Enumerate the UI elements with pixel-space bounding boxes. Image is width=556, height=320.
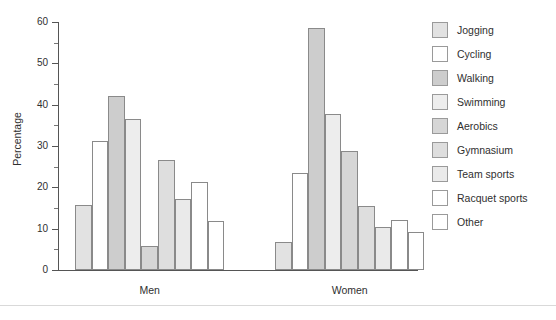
bar xyxy=(208,221,225,270)
y-axis-title-holder: Percentage xyxy=(10,100,24,180)
bar xyxy=(75,205,92,270)
bar xyxy=(341,151,358,270)
bar xyxy=(375,227,392,270)
y-tick-label: 60 xyxy=(18,17,48,27)
legend-item[interactable]: Swimming xyxy=(432,90,552,114)
bar xyxy=(292,173,309,270)
legend-label: Walking xyxy=(457,72,494,84)
legend-swatch-icon xyxy=(432,46,448,62)
bar xyxy=(158,160,175,270)
y-tick-label: 0 xyxy=(18,265,48,275)
legend-swatch-icon xyxy=(432,118,448,134)
legend-label: Aerobics xyxy=(457,120,498,132)
bar xyxy=(125,119,142,270)
bar xyxy=(308,28,325,270)
footer-divider xyxy=(0,305,556,306)
legend-swatch-icon xyxy=(432,142,448,158)
legend-label: Swimming xyxy=(457,96,505,108)
bar xyxy=(391,220,408,270)
legend-label: Team sports xyxy=(457,168,514,180)
y-tick-label: 50 xyxy=(18,58,48,68)
legend-item[interactable]: Aerobics xyxy=(432,114,552,138)
bar xyxy=(325,114,342,270)
x-axis-label-men: Men xyxy=(110,284,190,296)
legend-item[interactable]: Gymnasium xyxy=(432,138,552,162)
legend-item[interactable]: Walking xyxy=(432,66,552,90)
legend-item[interactable]: Other xyxy=(432,210,552,234)
bar xyxy=(141,246,158,270)
bar xyxy=(191,182,208,270)
legend-label: Other xyxy=(457,216,483,228)
x-axis-line xyxy=(58,270,418,271)
y-axis-title: Percentage xyxy=(11,99,23,179)
y-tick-label: 40 xyxy=(18,100,48,110)
y-tick-label: 10 xyxy=(18,224,48,234)
y-tick-major xyxy=(52,270,58,271)
legend-swatch-icon xyxy=(432,22,448,38)
legend-label: Racquet sports xyxy=(457,192,528,204)
bar xyxy=(92,141,109,270)
bar xyxy=(175,199,192,271)
bar xyxy=(358,206,375,270)
legend-item[interactable]: Racquet sports xyxy=(432,186,552,210)
legend-label: Cycling xyxy=(457,48,491,60)
bar xyxy=(108,96,125,270)
bar xyxy=(408,232,425,270)
legend-swatch-icon xyxy=(432,214,448,230)
legend-item[interactable]: Cycling xyxy=(432,42,552,66)
legend: JoggingCyclingWalkingSwimmingAerobicsGym… xyxy=(432,18,552,234)
legend-swatch-icon xyxy=(432,190,448,206)
bar-chart: Percentage 0102030405060 MenWomen Joggin… xyxy=(0,0,556,320)
legend-label: Gymnasium xyxy=(457,144,513,156)
x-axis-label-women: Women xyxy=(310,284,390,296)
y-tick-label: 20 xyxy=(18,182,48,192)
legend-swatch-icon xyxy=(432,94,448,110)
legend-label: Jogging xyxy=(457,24,494,36)
legend-item[interactable]: Team sports xyxy=(432,162,552,186)
y-tick-label: 30 xyxy=(18,141,48,151)
bar xyxy=(275,242,292,270)
legend-item[interactable]: Jogging xyxy=(432,18,552,42)
legend-swatch-icon xyxy=(432,70,448,86)
plot-area xyxy=(58,22,418,270)
legend-swatch-icon xyxy=(432,166,448,182)
